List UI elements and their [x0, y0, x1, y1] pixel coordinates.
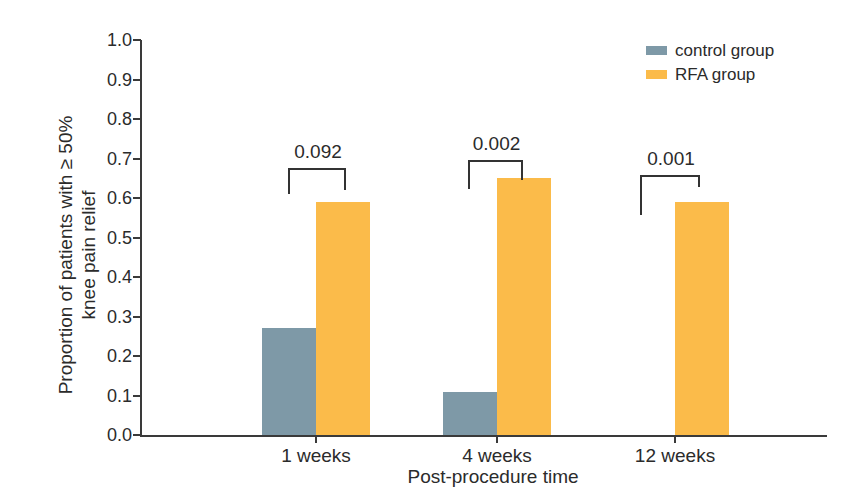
y-tick-label: 0.5: [107, 229, 132, 247]
y-tick: [133, 158, 141, 160]
y-axis-title: Proportion of patients with ≥ 50% knee p…: [54, 116, 100, 395]
bracket-right-arm: [521, 162, 523, 180]
y-tick-label: 1.0: [107, 31, 132, 49]
x-tick-label-1-weeks: 1 weeks: [281, 446, 351, 466]
legend-item-control: control group: [646, 38, 774, 62]
y-tick-label: 0.4: [107, 268, 132, 286]
bar-rfa-1-weeks: [316, 202, 370, 435]
y-tick-label: 0.9: [107, 71, 132, 89]
y-tick-label: 0.2: [107, 347, 132, 365]
y-tick: [133, 316, 141, 318]
x-axis-title: Post-procedure time: [407, 467, 578, 487]
x-tick-label-4-weeks: 4 weeks: [462, 446, 532, 466]
bracket-right-arm: [344, 170, 346, 190]
x-tick: [674, 437, 676, 443]
bracket-left-arm: [468, 162, 470, 189]
x-tick: [496, 437, 498, 443]
bracket-left-arm: [640, 177, 642, 215]
y-axis-title-line1: Proportion of patients with ≥ 50%: [54, 116, 77, 395]
p-value-label-12-weeks: 0.001: [647, 149, 695, 168]
significance-bracket-4-weeks: [468, 160, 523, 162]
p-value-label-1-weeks: 0.092: [294, 142, 342, 161]
bar-control-4-weeks: [443, 392, 497, 435]
significance-bracket-12-weeks: [640, 175, 700, 177]
y-tick: [133, 276, 141, 278]
y-tick: [133, 355, 141, 357]
y-tick: [133, 39, 141, 41]
y-axis-title-line2: knee pain relief: [77, 116, 100, 395]
bar-control-1-weeks: [262, 328, 316, 435]
legend-item-rfa: RFA group: [646, 62, 774, 86]
bar-chart-figure: Proportion of patients with ≥ 50% knee p…: [0, 0, 868, 503]
x-axis-line: [140, 435, 827, 437]
y-tick: [133, 395, 141, 397]
y-tick-label: 0.6: [107, 189, 132, 207]
legend-label-control-group: control group: [675, 42, 774, 59]
y-tick: [133, 79, 141, 81]
legend-swatch-control-group: [646, 46, 667, 55]
y-tick: [133, 237, 141, 239]
x-tick-label-12-weeks: 12 weeks: [635, 446, 715, 466]
bracket-right-arm: [698, 177, 700, 187]
significance-bracket-1-weeks: [288, 168, 346, 170]
legend-swatch-rfa-group: [646, 70, 667, 79]
y-tick: [133, 197, 141, 199]
p-value-label-4-weeks: 0.002: [473, 134, 521, 153]
y-tick-label: 0.1: [107, 387, 132, 405]
x-tick: [315, 437, 317, 443]
y-tick-label: 0.7: [107, 150, 132, 168]
bar-rfa-12-weeks: [675, 202, 729, 435]
legend: control group RFA group: [646, 38, 774, 86]
y-tick-label: 0.3: [107, 308, 132, 326]
legend-label-rfa-group: RFA group: [675, 66, 755, 83]
y-tick-label: 0.0: [107, 426, 132, 444]
bar-rfa-4-weeks: [497, 178, 551, 435]
bracket-left-arm: [288, 170, 290, 194]
y-tick-label: 0.8: [107, 110, 132, 128]
y-axis-line: [140, 40, 142, 437]
y-tick: [133, 118, 141, 120]
y-tick: [133, 434, 141, 436]
